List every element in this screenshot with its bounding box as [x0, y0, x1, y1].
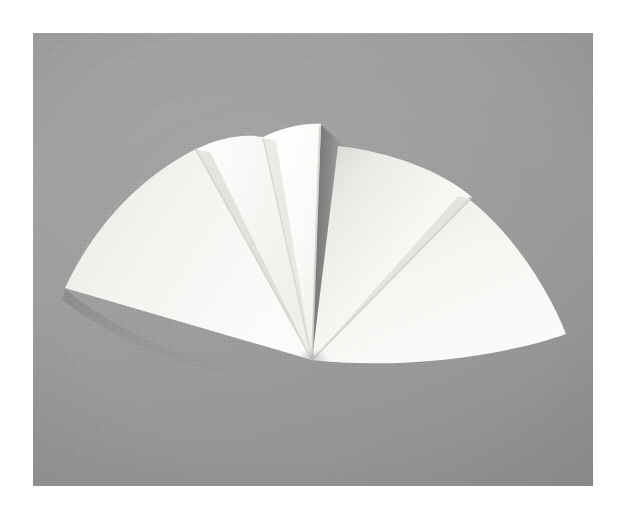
photograph-backdrop [33, 33, 593, 486]
screenshot-root [0, 0, 623, 511]
vignette-overlay [33, 33, 593, 486]
canvas-texture [33, 33, 593, 486]
